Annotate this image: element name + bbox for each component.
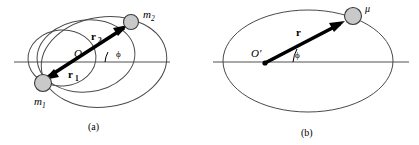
label-angle-phi-a: ϕ <box>116 49 121 59</box>
label-vector-r1-subscript: 1 <box>75 74 79 83</box>
vector-r-line-b <box>265 24 340 63</box>
two-body-orbit-diagram: m 1 m 2 O r 2 r 1 ϕ (a) <box>0 0 419 145</box>
label-vector-r2-subscript: 2 <box>98 36 102 45</box>
panel-b: O′ r ϕ μ (b) <box>213 3 409 139</box>
label-m2-subscript: 2 <box>151 14 155 23</box>
figure-root: m 1 m 2 O r 2 r 1 ϕ (a) <box>0 0 419 145</box>
label-m1: m <box>34 95 42 107</box>
mass-m2-disc <box>124 15 139 30</box>
angle-arc-a <box>105 52 108 62</box>
label-vector-r-b: r <box>296 26 301 38</box>
label-origin-O-prime: O′ <box>251 47 262 59</box>
label-m2: m <box>143 8 151 20</box>
label-m1-subscript: 1 <box>42 101 46 110</box>
panel-a: m 1 m 2 O r 2 r 1 ϕ (a) <box>14 8 173 133</box>
label-vector-r1: r <box>68 68 73 80</box>
label-origin-O: O <box>74 47 82 59</box>
label-angle-phi-b: ϕ <box>295 50 300 60</box>
vector-r-line-a <box>48 28 124 77</box>
label-reduced-mass-mu: μ <box>364 3 370 14</box>
caption-panel-b: (b) <box>301 127 313 139</box>
mass-m1-disc <box>35 75 52 92</box>
reduced-mass-disc <box>345 8 362 25</box>
orbit-ellipse-reduced <box>223 10 393 112</box>
caption-panel-a: (a) <box>88 121 99 133</box>
label-vector-r2: r <box>91 30 96 42</box>
